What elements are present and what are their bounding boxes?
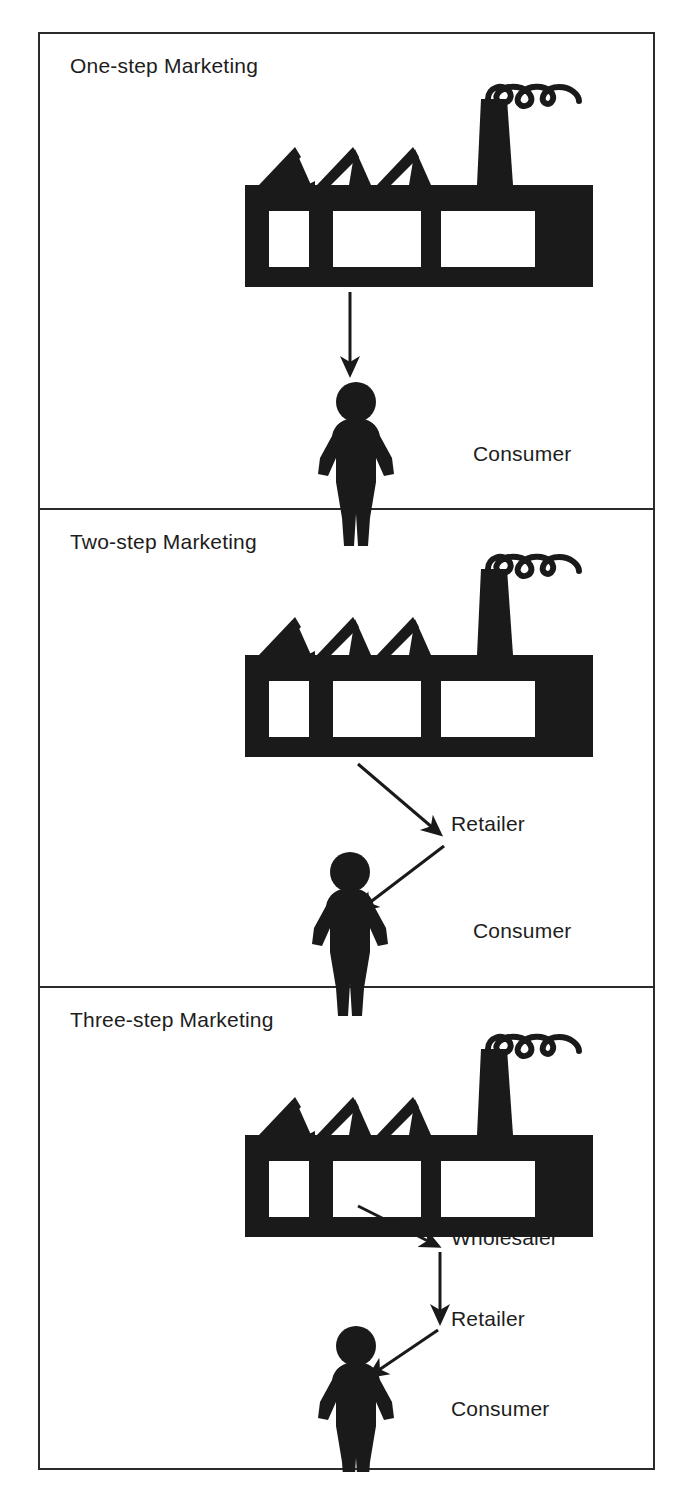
- person-icon-two-step: [312, 852, 388, 1016]
- panel-title-two-step: Two-step Marketing: [70, 530, 257, 554]
- panel-title-one-step: One-step Marketing: [70, 54, 258, 78]
- factory-icon-three-step: [245, 1037, 593, 1237]
- arrow-retailer-to-consumer-three-step: [370, 1330, 438, 1376]
- person-icon-three-step: [318, 1326, 394, 1472]
- label-retailer-three-step: Retailer: [451, 1307, 525, 1331]
- arrow-producer-to-retailer-two-step: [358, 764, 440, 834]
- label-consumer-two-step: Consumer: [473, 919, 571, 943]
- person-icon-one-step: [318, 382, 394, 546]
- panel-divider-2: [40, 986, 653, 988]
- panel-title-three-step: Three-step Marketing: [70, 1008, 274, 1032]
- label-wholesaler-three-step: Wholesaler: [451, 1226, 558, 1250]
- arrow-producer-to-wholesaler-three-step: [358, 1206, 438, 1246]
- label-producer-two-step: Producer: [473, 665, 560, 689]
- figure-frame: One-step Marketing Producer Consumer Two…: [38, 32, 655, 1470]
- panel-divider-1: [40, 508, 653, 510]
- label-consumer-three-step: Consumer: [451, 1397, 549, 1421]
- label-retailer-two-step: Retailer: [451, 812, 525, 836]
- diagram-artwork: [40, 34, 657, 1472]
- arrow-retailer-to-consumer-two-step: [360, 846, 444, 910]
- label-producer-three-step: Producer: [473, 1143, 560, 1167]
- marketing-channels-figure: One-step Marketing Producer Consumer Two…: [0, 0, 687, 1495]
- factory-icon-one-step: [245, 87, 593, 287]
- label-producer-one-step: Producer: [473, 197, 560, 221]
- label-consumer-one-step: Consumer: [473, 442, 571, 466]
- factory-icon-two-step: [245, 557, 593, 757]
